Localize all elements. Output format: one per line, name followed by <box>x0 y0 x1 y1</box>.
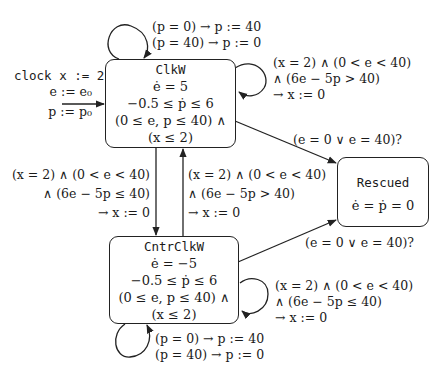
label-cntrclkw-self-p: (p = 0) → p := 40 (p = 40) → p := 0 <box>155 331 264 363</box>
label-line: (e = 0 ∨ e = 40)? <box>293 132 402 148</box>
label-line: (p = 40) → p := 0 <box>155 347 264 363</box>
initial-line-0: clock x := 2 <box>14 68 94 84</box>
initial-line-2: p := p₀ <box>14 104 94 120</box>
clkw-self-loop-p <box>108 25 148 59</box>
label-line: ∧ (6e − 5p ≤ 40) <box>275 294 413 310</box>
state-invariant-2: (x ≤ 2) <box>110 306 238 323</box>
initial-line-1: e := e₀ <box>14 84 94 100</box>
label-line: (x = 2) ∧ (0 < e < 40) <box>188 167 326 183</box>
label-line: (p = 0) → p := 40 <box>152 19 261 35</box>
state-cntrclkw[interactable]: CntrClkW ė = −5 −0.5 ≤ ṗ ≤ 6 (0 ≤ e, p ≤… <box>109 236 239 324</box>
state-invariant-1: (0 ≤ e, p ≤ 40) ∧ <box>110 289 238 306</box>
label-line: (x = 2) ∧ (0 < e < 40) <box>4 167 150 183</box>
clkw-self-loop-x <box>235 64 266 96</box>
label-line: ∧ (6e − 5p > 40) <box>273 71 411 87</box>
label-line: → x := 0 <box>188 205 326 221</box>
state-name: CntrClkW <box>110 239 238 255</box>
state-invariant-1: (0 ≤ e, p ≤ 40) ∧ <box>106 112 235 129</box>
state-flow-p: −0.5 ≤ ṗ ≤ 6 <box>106 95 235 112</box>
label-line: (x = 2) ∧ (0 < e < 40) <box>275 278 413 294</box>
label-clkw-self-p: (p = 0) → p := 40 (p = 40) → p := 0 <box>152 19 261 51</box>
label-clkw-to-cntrclkw: (x = 2) ∧ (0 < e < 40) ∧ (6e − 5p ≤ 40) … <box>4 167 150 221</box>
label-line: → x := 0 <box>4 205 150 221</box>
state-rescued[interactable]: Rescued ė = ṗ = 0 <box>337 157 429 227</box>
label-line: (p = 40) → p := 0 <box>152 35 261 51</box>
label-line: ∧ (6e − 5p ≤ 40) <box>4 186 150 202</box>
state-flow-e: ė = 5 <box>106 78 235 95</box>
label-clkw-self-x: (x = 2) ∧ (0 < e < 40) ∧ (6e − 5p > 40) … <box>273 55 411 103</box>
label-line: → x := 0 <box>275 310 413 326</box>
state-name: ClkW <box>106 62 235 78</box>
label-line: → x := 0 <box>273 87 411 103</box>
cntrclkw-self-loop-p <box>116 324 150 357</box>
state-clkw[interactable]: ClkW ė = 5 −0.5 ≤ ṗ ≤ 6 (0 ≤ e, p ≤ 40) … <box>105 59 236 148</box>
label-clkw-to-rescued: (e = 0 ∨ e = 40)? <box>293 132 402 148</box>
state-name: Rescued <box>338 175 428 191</box>
label-line: ∧ (6e − 5p > 40) <box>188 186 326 202</box>
label-line: (x = 2) ∧ (0 < e < 40) <box>273 55 411 71</box>
label-cntrclkw-to-rescued: (e = 0 ∨ e = 40)? <box>305 235 414 251</box>
cntrclkw-self-loop-x <box>240 279 268 314</box>
state-flow-p: −0.5 ≤ ṗ ≤ 6 <box>110 272 238 289</box>
initial-label: clock x := 2 e := e₀ p := p₀ <box>14 68 94 120</box>
state-invariant-2: (x ≤ 2) <box>106 129 235 146</box>
label-cntrclkw-to-clkw: (x = 2) ∧ (0 < e < 40) ∧ (6e − 5p > 40) … <box>188 167 326 221</box>
state-flow: ė = ṗ = 0 <box>338 197 428 214</box>
label-cntrclkw-self-x: (x = 2) ∧ (0 < e < 40) ∧ (6e − 5p ≤ 40) … <box>275 278 413 326</box>
label-line: (e = 0 ∨ e = 40)? <box>305 235 414 251</box>
state-flow-e: ė = −5 <box>110 255 238 272</box>
label-line: (p = 0) → p := 40 <box>155 331 264 347</box>
